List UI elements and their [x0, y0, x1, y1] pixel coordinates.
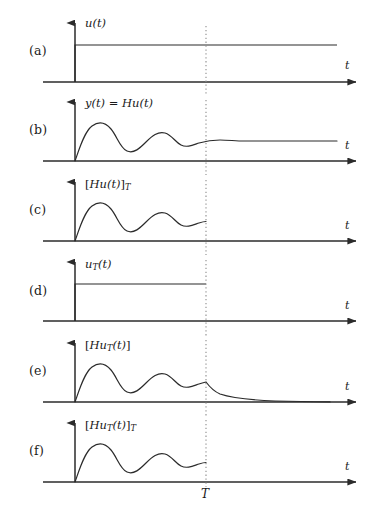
signal-e-name: Hu: [90, 338, 107, 352]
signal-f-sub2: T: [131, 423, 137, 433]
signal-f-arg: (t): [112, 418, 126, 432]
signal-label-b: y(t) = Hu(t): [85, 96, 153, 110]
signal-label-d: uT(t): [85, 257, 112, 272]
signal-c-sub: T: [125, 182, 131, 192]
figure-canvas: [0, 0, 389, 521]
axis-label-t-b: t: [345, 139, 349, 152]
panel-label-a: (a): [29, 43, 47, 58]
axis-label-t-e: t: [345, 380, 349, 393]
panel-f-waveform-truncated-response: [75, 444, 206, 482]
axis-label-t-a: t: [345, 59, 349, 72]
panel-b-axes: [43, 102, 356, 161]
signal-b-equals: =: [109, 96, 119, 110]
panel-c-waveform-truncated-response: [75, 203, 206, 241]
truncation-time-label-T: T: [201, 487, 209, 501]
axis-label-t-c: t: [345, 219, 349, 232]
panel-label-f: (f): [29, 443, 44, 458]
signal-c-body: Hu(t): [90, 177, 121, 191]
signal-label-e: [HuT(t)]: [85, 338, 131, 353]
signal-b-rhs: Hu(t): [122, 96, 153, 110]
figure-root: (a) (b) (c) (d) (e) (f) u(t) y(t) = Hu(t…: [0, 0, 389, 521]
panel-e-waveform-response-with-decay: [75, 364, 330, 402]
axis-label-t-f: t: [345, 460, 349, 473]
signal-a-arg: (t): [92, 16, 106, 30]
panel-label-d: (d): [29, 283, 47, 298]
signal-label-f: [HuT(t)]T: [85, 418, 136, 433]
signal-e-arg: (t): [112, 338, 126, 352]
panel-label-c: (c): [29, 202, 46, 217]
signal-label-a: u(t): [85, 16, 106, 30]
signal-f-name: Hu: [90, 418, 107, 432]
signal-label-c: [Hu(t)]T: [85, 177, 131, 192]
panel-a-axes: [43, 23, 356, 82]
axis-label-t-d: t: [345, 299, 349, 312]
signal-e-close: ]: [126, 338, 131, 352]
signal-d-arg: (t): [98, 257, 112, 271]
signal-b-arg: (t): [92, 96, 106, 110]
panel-label-b: (b): [29, 122, 47, 137]
panel-label-e: (e): [29, 363, 47, 378]
panel-d-waveform-truncated-step: [75, 284, 206, 321]
